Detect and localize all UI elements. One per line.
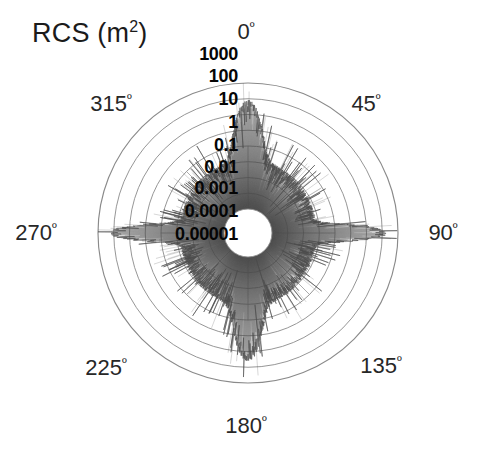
angle-label-value: 180 xyxy=(225,413,262,438)
chart-title-superscript: 2 xyxy=(129,18,138,35)
radial-tick-label: 100 xyxy=(209,66,238,87)
angle-label-135: 135º xyxy=(360,353,401,379)
angle-label-270: 270º xyxy=(15,220,56,246)
angle-label-225: 225º xyxy=(85,355,126,381)
angle-label-degree-symbol: º xyxy=(52,220,57,235)
radial-tick-label: 1000 xyxy=(199,44,238,65)
angle-label-degree-symbol: º xyxy=(453,220,458,235)
angle-label-value: 90 xyxy=(428,220,452,245)
angle-label-degree-symbol: º xyxy=(127,91,132,106)
angle-label-value: 135 xyxy=(360,353,397,378)
angle-label-0: 0º xyxy=(238,19,255,45)
angle-label-degree-symbol: º xyxy=(376,91,381,106)
chart-title-suffix: ) xyxy=(138,18,147,48)
radial-tick-label: 0.00001 xyxy=(175,224,238,245)
radial-tick-label: 0.0001 xyxy=(185,201,238,222)
angle-label-value: 45 xyxy=(351,91,375,116)
radial-tick-label: 10 xyxy=(219,89,238,110)
rcs-polar-plot-figure: RCS (m2) 0º45º90º135º180º225º270º315º 10… xyxy=(0,0,479,469)
radial-tick-label: 0.001 xyxy=(194,178,238,199)
angle-label-45: 45º xyxy=(351,91,380,117)
angle-label-degree-symbol: º xyxy=(397,353,402,368)
rcs-data-trace xyxy=(98,83,397,377)
radial-tick-label: 0.1 xyxy=(214,135,238,156)
angle-label-value: 225 xyxy=(85,355,122,380)
polar-plot-canvas xyxy=(0,0,479,469)
radial-tick-label: 0.01 xyxy=(204,157,238,178)
angle-label-90: 90º xyxy=(428,220,457,246)
angle-label-315: 315º xyxy=(90,91,131,117)
angle-label-degree-symbol: º xyxy=(262,413,267,428)
chart-title-text: RCS (m xyxy=(32,18,129,48)
chart-title: RCS (m2) xyxy=(32,18,148,49)
angle-label-value: 270 xyxy=(15,220,52,245)
angle-label-value: 315 xyxy=(90,91,127,116)
angle-label-180: 180º xyxy=(225,413,266,439)
angle-label-degree-symbol: º xyxy=(122,355,127,370)
angle-label-degree-symbol: º xyxy=(250,19,255,34)
angle-label-value: 0 xyxy=(238,19,250,44)
radial-tick-label: 1 xyxy=(228,112,238,133)
